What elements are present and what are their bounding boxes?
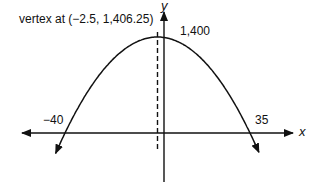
y-intercept-label: 1,400 [180, 25, 210, 37]
x-right-intercept-label: 35 [255, 114, 268, 126]
parabola-chart [0, 0, 317, 192]
vertex-label: vertex at (−2.5, 1,406.25) [19, 13, 153, 25]
y-axis-label: y [161, 0, 168, 12]
curve-right-arrow [256, 146, 259, 152]
x-axis-label: x [299, 125, 306, 138]
x-left-intercept-label: −40 [43, 114, 63, 126]
curve-left-arrow [56, 147, 59, 153]
